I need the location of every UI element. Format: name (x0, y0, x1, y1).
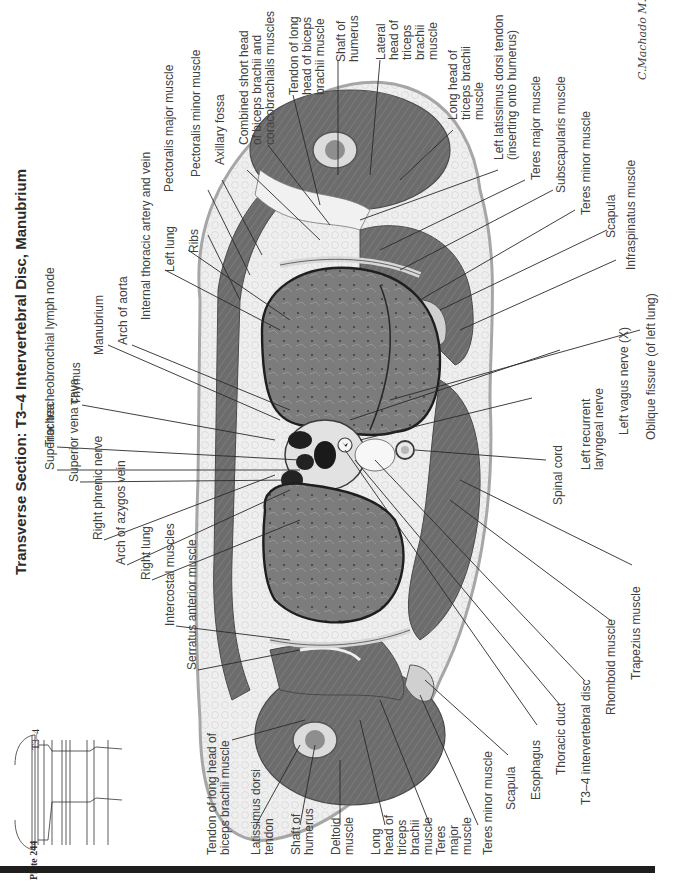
label-thoracic-duct: Thoracic duct (555, 703, 568, 775)
label-thymus: Thymus (70, 362, 83, 405)
label-lateral-head-triceps: Lateral head of triceps brachii muscle (375, 20, 440, 60)
label-manubrium: Manubrium (93, 295, 106, 355)
label-oblique-fissure-left-lung: Oblique fissure (of left lung) (645, 293, 658, 440)
label-pectoralis-major-muscle: Pectoralis major muscle (163, 65, 176, 192)
label-arch-of-aorta: Arch of aorta (117, 276, 130, 345)
label-left-lung: Left lung (164, 226, 177, 272)
label-t3-4-intervertebral-disc: T3–4 intervertebral disc (580, 680, 593, 805)
label-internal-thoracic-artery-vein: Internal thoracic artery and vein (140, 152, 153, 320)
label-trapezius-muscle: Trapezius muscle (630, 586, 643, 680)
label-combined-short-head-biceps-coracobrachialis: Combined short head of biceps brachii an… (238, 11, 277, 145)
illustrator-signature: C.Machado M.D. (636, 0, 649, 80)
label-teres-major-muscle-top: Teres major muscle (530, 76, 543, 180)
label-teres-major-muscle-left: Teres major muscle (435, 817, 474, 855)
label-arch-of-azygos-vein: Arch of azygos vein (115, 460, 128, 565)
label-teres-minor-muscle-top: Teres minor muscle (580, 111, 593, 215)
label-long-head-triceps-top: Long head of triceps brachii muscle (447, 46, 486, 120)
label-spinal-cord: Spinal cord (552, 445, 565, 505)
label-subscapularis-muscle: Subscapularis muscle (555, 76, 568, 193)
label-rhomboid-muscle: Rhomboid muscle (605, 619, 618, 715)
label-serratus-anterior-muscle: Serratus anterior muscle (186, 539, 199, 670)
label-esophagus: Esophagus (530, 740, 543, 800)
label-deltoid-muscle: Deltoid muscle (330, 817, 356, 855)
label-right-lung: Right lung (140, 526, 153, 580)
label-tendon-long-head-biceps-left: Tendon of long head of biceps brachii mu… (206, 733, 232, 855)
label-ribs: Ribs (188, 229, 201, 253)
page-title: Transverse Section: T3–4 Intervertebral … (12, 169, 29, 575)
plate-number: Plate 244 (28, 841, 39, 880)
vertebral-level-label: T3–4 (30, 729, 41, 750)
label-shaft-of-humerus-left: Shaft of humerus (290, 808, 316, 855)
atlas-page: Transverse Section: T3–4 Intervertebral … (0, 0, 688, 885)
label-tendon-long-head-biceps-top: Tendon of long head of biceps brachii mu… (288, 16, 327, 95)
label-scapula-top: Scapula (605, 195, 618, 238)
label-right-phrenic-nerve: Right phrenic nerve (92, 436, 105, 540)
vertebral-level-inset (15, 735, 122, 850)
label-trachea: Trachea (44, 403, 57, 447)
label-latissimus-dorsi-tendon: Latissimus dorsi tendon (250, 769, 276, 855)
page-bottom-rule (0, 866, 655, 873)
label-long-head-triceps-left: Long head of triceps brachii muscle (370, 815, 435, 855)
label-pectoralis-minor-muscle: Pectoralis minor muscle (190, 50, 203, 177)
label-teres-minor-muscle-left: Teres minor muscle (482, 751, 495, 855)
label-left-recurrent-laryngeal-nerve: Left recurrent laryngeal nerve (580, 388, 606, 470)
label-infraspinatus-muscle: Infraspinatus muscle (625, 160, 638, 270)
label-intercostal-muscles: Intercostal muscles (164, 523, 177, 626)
label-axillary-fossa: Axillary fossa (214, 94, 227, 165)
label-left-latissimus-dorsi-tendon: Left latissimus dorsi tendon (inserting … (493, 15, 519, 160)
label-left-vagus-nerve: Left vagus nerve (X) (618, 327, 631, 435)
label-shaft-of-humerus-top: Shaft of humerus (335, 15, 361, 62)
label-scapula-left: Scapula (505, 767, 518, 810)
